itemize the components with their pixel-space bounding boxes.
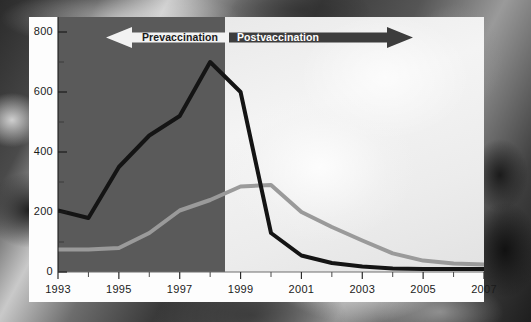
x-tick-label: 2005 [403,283,443,295]
postvaccination-label: Postvaccination [237,27,319,48]
axes [29,17,484,302]
y-tick-label: 600 [29,85,53,97]
y-tick-label: 400 [29,145,53,157]
x-axis-ticks [58,272,484,279]
y-tick-label: 200 [29,205,53,217]
x-tick-label: 1993 [38,283,78,295]
prevaccination-annotation: Prevaccination [106,27,234,48]
x-tick-label: 2007 [464,283,504,295]
x-tick-label: 2003 [342,283,382,295]
x-tick-label: 1997 [160,283,200,295]
x-tick-label: 2001 [281,283,321,295]
x-tick-label: 1995 [99,283,139,295]
y-tick-label: 0 [29,265,53,277]
x-tick-label: 1999 [221,283,261,295]
chart-panel: 0200400600800 19931995199719992001200320… [29,17,484,302]
axis-lines [58,17,484,272]
prevaccination-label: Prevaccination [142,27,218,48]
chart-figure: 0200400600800 19931995199719992001200320… [0,0,531,322]
postvaccination-annotation: Postvaccination [229,27,413,48]
y-axis-ticks [58,32,67,272]
y-tick-label: 800 [29,25,53,37]
